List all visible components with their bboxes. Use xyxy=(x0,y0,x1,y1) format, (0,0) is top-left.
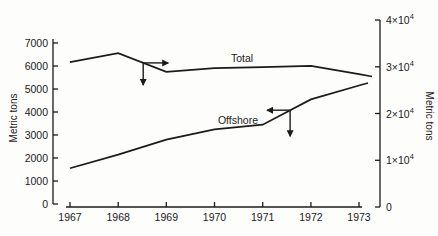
x-axis: 1967196819691970197119721973 xyxy=(58,202,371,223)
left-axis-tick-label: 5000 xyxy=(25,83,49,95)
right-axis-title: Metric tons xyxy=(424,92,435,141)
right-axis-tick-label: 3×104 xyxy=(386,58,414,73)
left-axis-tick-label: 6000 xyxy=(25,60,49,72)
left-axis-tick-label: 7000 xyxy=(25,37,49,49)
left-axis-tick-label: 1000 xyxy=(25,175,49,187)
left-axis: 01000200030004000500060007000Metric tons xyxy=(8,37,59,210)
total-axis-arrows xyxy=(143,63,168,85)
x-axis-tick-label: 1969 xyxy=(155,211,179,223)
x-axis-tick-label: 1970 xyxy=(203,211,227,223)
left-axis-tick-label: 3000 xyxy=(25,129,49,141)
left-axis-title: Metric tons xyxy=(8,94,19,143)
right-axis-tick-label: 1×104 xyxy=(386,152,414,167)
right-axis-tick-label: 4×104 xyxy=(386,12,414,27)
right-axis-tick-label: 2×104 xyxy=(386,105,414,120)
right-axis: 01×1042×1043×1044×104Metric tons xyxy=(375,12,435,214)
right-axis-tick-label: 0 xyxy=(386,201,392,213)
left-axis-tick-label: 2000 xyxy=(25,152,49,164)
dual-axis-line-chart: 01000200030004000500060007000Metric tons… xyxy=(0,0,438,236)
left-axis-tick-label: 4000 xyxy=(25,106,49,118)
total-line xyxy=(70,53,372,76)
x-axis-tick-label: 1971 xyxy=(251,211,275,223)
x-axis-tick-label: 1972 xyxy=(299,211,323,223)
x-axis-tick-label: 1968 xyxy=(107,211,131,223)
left-axis-tick-label: 0 xyxy=(42,198,48,210)
offshore-series-label: Offshore xyxy=(218,114,258,126)
offshore-axis-arrows xyxy=(267,110,290,136)
x-axis-tick-label: 1967 xyxy=(58,211,82,223)
total-series-label: Total xyxy=(231,52,253,64)
x-axis-tick-label: 1973 xyxy=(347,211,371,223)
figure: 01000200030004000500060007000Metric tons… xyxy=(0,0,438,236)
